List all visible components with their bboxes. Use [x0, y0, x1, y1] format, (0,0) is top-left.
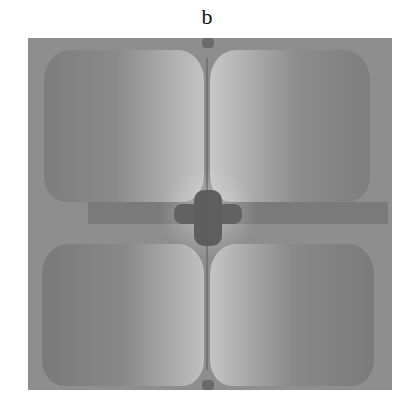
lobe-bottom-left: [42, 244, 204, 386]
bottom-notch: [202, 380, 214, 390]
top-notch: [202, 38, 214, 48]
micrograph-image: [28, 38, 392, 390]
vertical-seam: [206, 58, 208, 370]
cross-vertical: [194, 190, 222, 246]
lobe-bottom-right: [210, 244, 374, 386]
figure-caption: b: [0, 4, 414, 30]
